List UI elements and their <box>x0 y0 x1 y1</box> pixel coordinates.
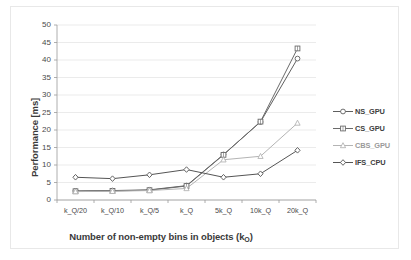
data-point <box>258 171 263 177</box>
series-ifs_cpu <box>73 148 300 182</box>
legend-label: CS_GPU <box>355 124 385 133</box>
chart-container: Performance [ms] Number of non-empty bin… <box>10 6 399 249</box>
data-point <box>341 109 346 114</box>
legend-marker-diamond-icon <box>333 157 353 168</box>
legend-marker-circle-icon <box>333 106 353 117</box>
legend-label: IFS_CPU <box>355 158 386 167</box>
legend-label: CBS_GPU <box>355 141 390 150</box>
legend-marker-square-icon <box>333 123 353 134</box>
data-point <box>340 160 345 166</box>
data-point <box>341 126 346 131</box>
legend-item-cs_gpu[interactable]: CS_GPU <box>333 120 403 137</box>
data-point <box>73 174 78 180</box>
data-point <box>295 56 300 61</box>
legend-label: NS_GPU <box>355 107 385 116</box>
data-point <box>295 148 300 154</box>
data-point <box>184 167 189 173</box>
legend: NS_GPUCS_GPUCBS_GPUIFS_CPU <box>333 103 403 171</box>
data-point <box>110 176 115 182</box>
legend-item-ns_gpu[interactable]: NS_GPU <box>333 103 403 120</box>
legend-item-cbs_gpu[interactable]: CBS_GPU <box>333 137 403 154</box>
data-point <box>295 46 300 51</box>
legend-item-ifs_cpu[interactable]: IFS_CPU <box>333 154 403 171</box>
axis-lines <box>54 25 316 203</box>
legend-marker-triangle-icon <box>333 140 353 151</box>
data-point <box>221 174 226 180</box>
data-point <box>295 120 300 125</box>
data-point <box>147 172 152 178</box>
data-point <box>258 119 263 124</box>
gridlines <box>57 25 316 200</box>
